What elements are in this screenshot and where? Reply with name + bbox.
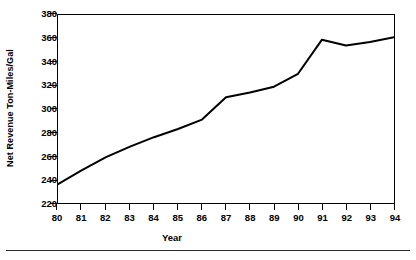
y-axis-tick-label: 260	[11, 152, 57, 162]
y-axis-tick-label: 280	[11, 128, 57, 138]
y-axis-tick-label: 240	[11, 175, 57, 185]
y-axis-tick-label: 300	[11, 104, 57, 114]
x-axis-tick	[394, 204, 395, 210]
x-axis-tick-label: 89	[261, 213, 287, 223]
y-axis-tick-label: 320	[11, 80, 57, 90]
x-axis-tick-label: 90	[285, 213, 311, 223]
x-axis-tick	[153, 204, 154, 210]
footer-rule	[6, 250, 410, 251]
x-axis-tick	[346, 204, 347, 210]
x-axis-tick	[105, 204, 106, 210]
x-axis-tick-label: 85	[165, 213, 191, 223]
chart-figure: Net Revenue Ton-Miles/Gal 22024026028030…	[0, 0, 416, 260]
x-axis-tick-label: 81	[68, 213, 94, 223]
y-axis-tick-label: 360	[11, 33, 57, 43]
data-line-series	[58, 15, 394, 203]
x-axis-tick-label: 92	[334, 213, 360, 223]
x-axis-tick	[322, 204, 323, 210]
y-axis-tick-label: 380	[11, 9, 57, 19]
x-axis-tick	[249, 204, 250, 210]
x-axis-tick	[80, 204, 81, 210]
x-axis-tick	[177, 204, 178, 210]
x-axis-tick	[370, 204, 371, 210]
x-axis-tick	[56, 204, 57, 210]
x-axis-tick-label: 87	[213, 213, 239, 223]
x-axis-tick	[201, 204, 202, 210]
x-axis-tick-label: 91	[310, 213, 336, 223]
x-axis-tick	[274, 204, 275, 210]
x-axis-tick-label: 83	[116, 213, 142, 223]
x-axis-tick-label: 84	[141, 213, 167, 223]
x-axis-tick	[129, 204, 130, 210]
x-axis-title: Year	[0, 232, 344, 243]
x-axis-tick-label: 88	[237, 213, 263, 223]
x-axis-tick	[225, 204, 226, 210]
x-axis-tick-label: 80	[44, 213, 70, 223]
x-axis-tick-label: 94	[382, 213, 408, 223]
x-axis-tick	[298, 204, 299, 210]
y-axis-tick-label: 340	[11, 57, 57, 67]
x-axis-tick-label: 82	[92, 213, 118, 223]
plot-area	[57, 14, 395, 204]
series-polyline	[58, 37, 394, 184]
x-axis-tick-label: 86	[189, 213, 215, 223]
y-axis: 220240260280300320340360380	[0, 0, 57, 218]
x-axis-tick-label: 93	[358, 213, 384, 223]
